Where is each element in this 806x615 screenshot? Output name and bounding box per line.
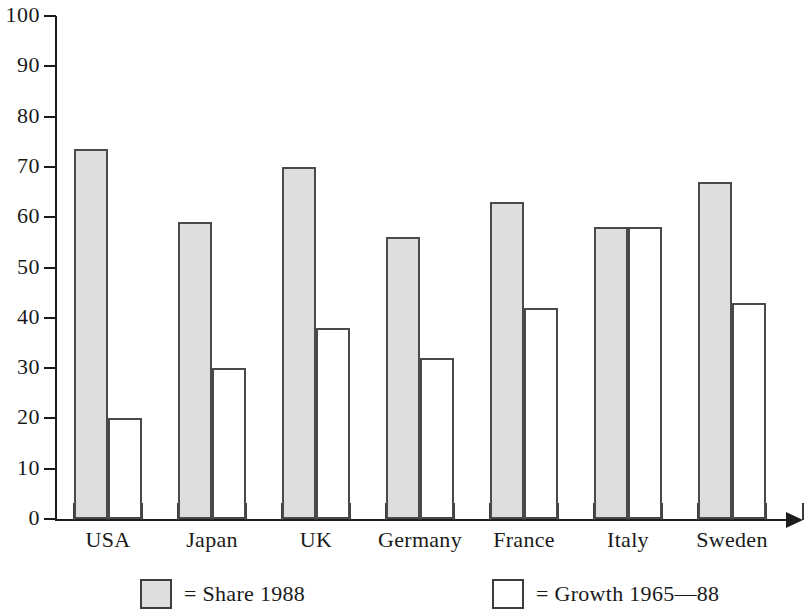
x-axis-arrow-icon [786,512,803,528]
bar-italy-growth [628,227,662,519]
x-axis-line [55,519,792,521]
y-axis-line [55,16,57,521]
x-axis-label-france: France [472,528,576,552]
y-axis-tick-label: 10 [0,457,40,479]
x-axis-label-japan: Japan [160,528,264,552]
y-axis-tick-label: 80 [0,105,40,127]
plot-area: 0102030405060708090100 USAJapanUKGermany… [0,0,806,560]
legend-label-growth: = Growth 1965—88 [536,582,719,606]
y-axis-tick-label: 0 [0,507,40,529]
bar-sweden-growth [732,303,766,519]
y-axis-tick [44,166,56,168]
y-axis-tick [44,367,56,369]
bar-france-growth [524,308,558,519]
bar-uk-growth [316,328,350,519]
y-axis-tick [44,317,56,319]
bar-sweden-share [698,182,732,519]
y-axis-tick-label: 70 [0,155,40,177]
y-axis-tick [44,468,56,470]
legend-entry-share: = Share 1988 [140,579,305,609]
bar-japan-share [178,222,212,519]
x-axis-label-italy: Italy [576,528,680,552]
y-axis-tick-label: 90 [0,54,40,76]
legend-entry-growth: = Growth 1965—88 [492,579,719,609]
bar-chart: 0102030405060708090100 USAJapanUKGermany… [0,0,806,615]
bar-germany-growth [420,358,454,519]
legend-swatch-growth-icon [492,579,524,609]
y-axis-tick-label: 20 [0,406,40,428]
y-axis-tick [44,216,56,218]
y-axis-tick [44,15,56,17]
bar-uk-share [282,167,316,519]
bar-italy-share [594,227,628,519]
y-axis-tick [44,417,56,419]
y-axis-tick [44,65,56,67]
y-axis-tick-label: 50 [0,256,40,278]
y-axis-tick-label: 40 [0,306,40,328]
y-axis-tick-label: 60 [0,205,40,227]
legend: = Share 1988 = Growth 1965—88 [0,576,806,615]
bar-france-share [490,202,524,519]
x-axis-tick [802,503,804,520]
bar-usa-growth [108,418,142,519]
legend-swatch-share-icon [140,579,172,609]
y-axis-tick [44,518,56,520]
bar-germany-share [386,237,420,519]
y-axis-tick [44,116,56,118]
x-axis-label-sweden: Sweden [680,528,784,552]
x-axis-label-usa: USA [56,528,160,552]
x-axis-label-germany: Germany [368,528,472,552]
x-axis-label-uk: UK [264,528,368,552]
bar-usa-share [74,149,108,519]
y-axis-tick [44,267,56,269]
bar-japan-growth [212,368,246,519]
legend-label-share: = Share 1988 [184,582,305,606]
y-axis-tick-label: 100 [0,4,40,26]
y-axis-tick-label: 30 [0,356,40,378]
